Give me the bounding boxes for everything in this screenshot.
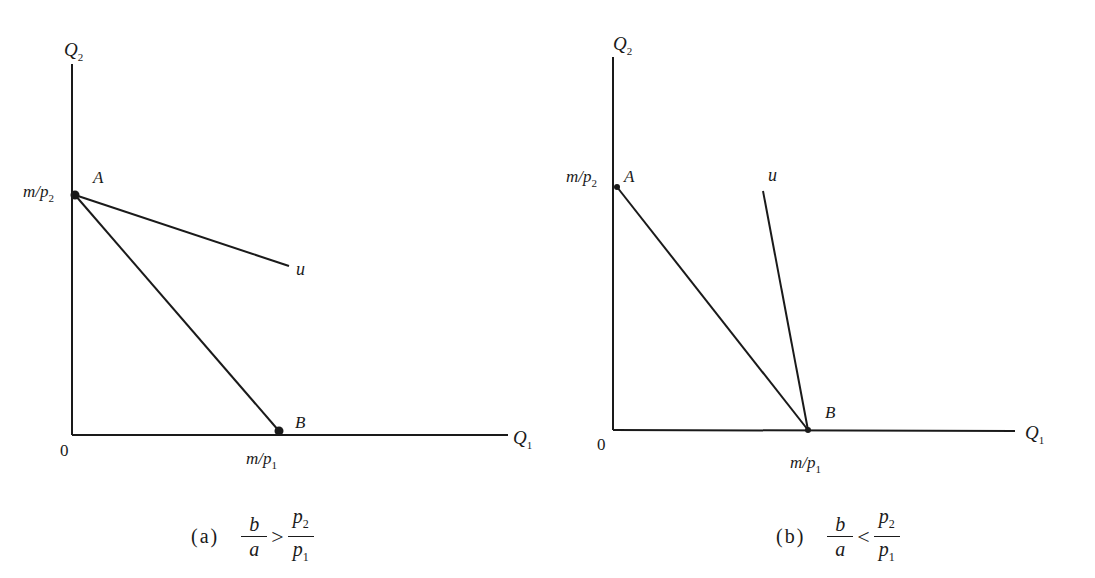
budget-line [75, 195, 279, 431]
point-a-label: A [623, 167, 635, 186]
y-axis-label: Q2 [613, 33, 632, 57]
origin-label: 0 [597, 435, 606, 454]
caption-a: (a) b a > p2 p1 [191, 504, 314, 569]
relation-sign: < [857, 524, 869, 550]
numerator: b [249, 512, 259, 536]
point-b-dot [805, 427, 811, 433]
point-b-label: B [295, 413, 306, 432]
caption-b: (b) b a < p2 p1 [776, 504, 900, 569]
diagram-canvas: Q2 Q1 0 m/p2 m/p1 A B u Q2 Q1 0 m/p2 m/p… [0, 0, 1095, 578]
x-axis [613, 430, 1015, 431]
point-b-label: B [825, 403, 836, 422]
panel-b: Q2 Q1 0 m/p2 m/p1 A B u [566, 33, 1044, 475]
curve-u-label: u [296, 259, 305, 279]
x-axis-label: Q1 [1025, 422, 1044, 446]
origin-label: 0 [60, 441, 69, 460]
y-intercept-label: m/p2 [566, 167, 597, 189]
indifference-line-u [75, 195, 289, 266]
budget-line [617, 187, 808, 430]
fraction-b-over-a: b a [241, 512, 267, 561]
denominator: a [249, 537, 259, 561]
numerator: b [835, 512, 845, 536]
y-intercept-label: m/p2 [23, 182, 54, 204]
indifference-line-u [763, 191, 808, 430]
fraction-p2-over-p1: p2 p1 [874, 504, 900, 569]
y-axis-label: Q2 [64, 39, 83, 63]
denominator: p1 [879, 537, 895, 569]
caption-tag: (b) [776, 525, 805, 548]
caption-tag: (a) [191, 525, 219, 548]
fraction-p2-over-p1: p2 p1 [288, 504, 314, 569]
point-a-dot [614, 184, 620, 190]
denominator: p1 [293, 537, 309, 569]
x-intercept-label: m/p1 [246, 449, 277, 471]
point-b-dot [275, 427, 284, 436]
numerator: p2 [879, 504, 895, 536]
point-a-label: A [92, 168, 104, 187]
denominator: a [835, 537, 845, 561]
fraction-b-over-a: b a [827, 512, 853, 561]
curve-u-label: u [768, 165, 777, 185]
x-intercept-label: m/p1 [790, 453, 821, 475]
x-axis-label: Q1 [513, 427, 532, 451]
relation-sign: > [271, 524, 283, 550]
panel-a: Q2 Q1 0 m/p2 m/p1 A B u [23, 39, 532, 471]
point-a-dot [71, 191, 80, 200]
numerator: p2 [293, 504, 309, 536]
